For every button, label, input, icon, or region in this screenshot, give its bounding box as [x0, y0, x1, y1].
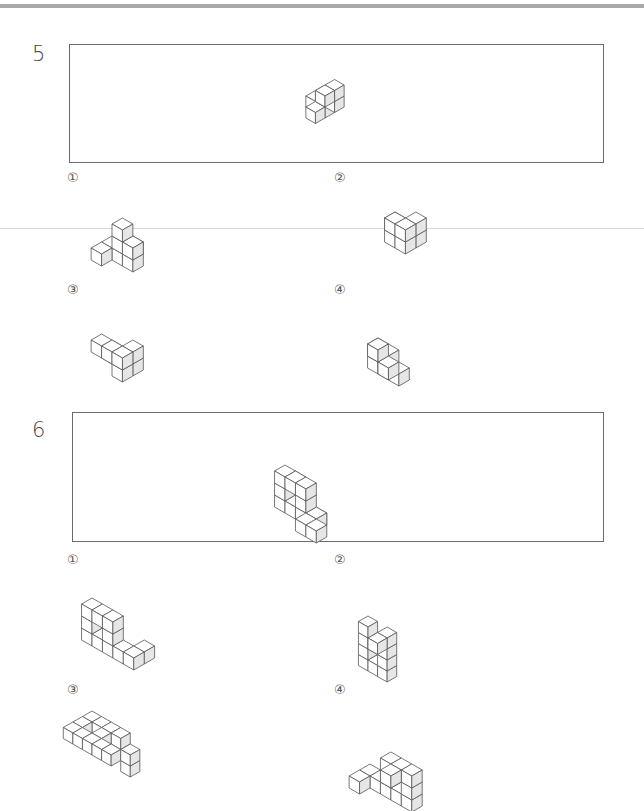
- option-marker: ④: [334, 682, 346, 697]
- reference-cube-figure: [73, 413, 74, 414]
- option-marker: ③: [67, 682, 79, 697]
- reference-figure-box: [69, 44, 604, 163]
- option-marker: ①: [67, 552, 79, 567]
- scan-divider-line: [0, 228, 644, 229]
- option-marker: ④: [334, 282, 346, 297]
- option-marker: ③: [67, 282, 79, 297]
- option-cube-figure: [0, 0, 1, 1]
- reference-cube-figure: [70, 45, 71, 46]
- option-marker: ②: [334, 552, 346, 567]
- question-number: 5: [32, 42, 45, 66]
- reference-figure-box: [72, 412, 604, 542]
- option-marker: ①: [67, 170, 79, 185]
- question-number: 6: [32, 418, 45, 442]
- option-marker: ②: [334, 170, 346, 185]
- page-top-rule: [0, 4, 644, 8]
